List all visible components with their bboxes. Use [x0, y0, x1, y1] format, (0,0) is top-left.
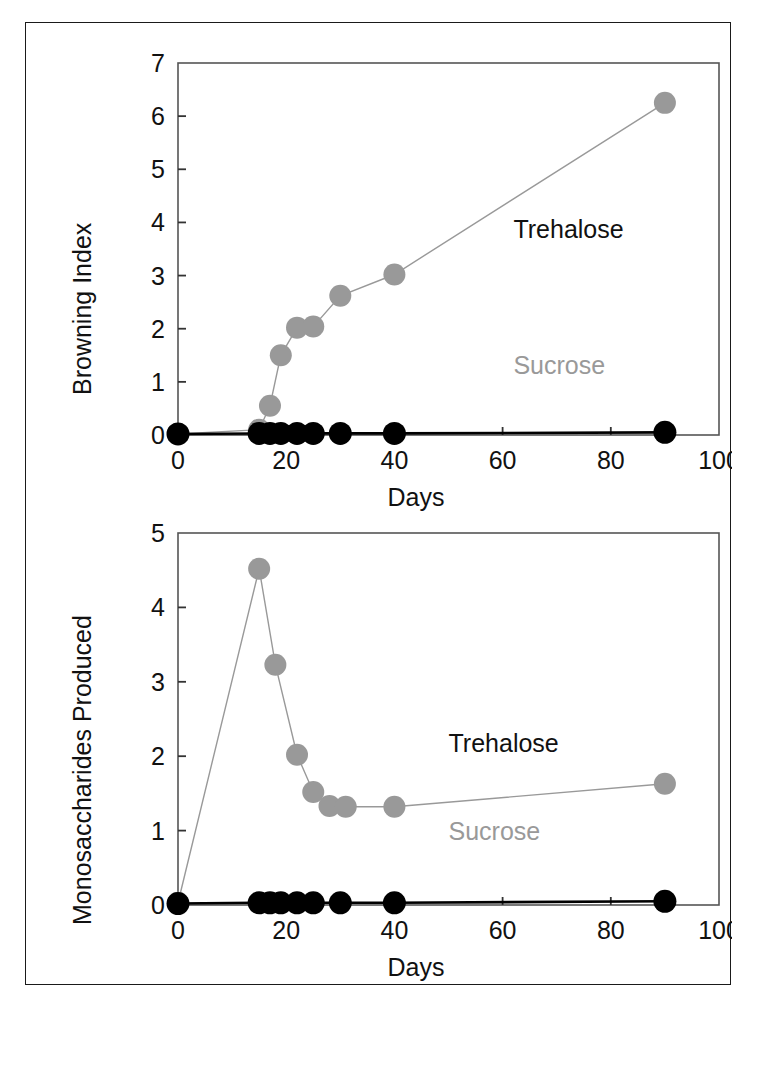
- y-tick-label-0-1: 1: [151, 368, 165, 396]
- monosaccharides-plot: 020406080100012345TrehaloseSucrose: [26, 513, 732, 963]
- y-tick-label-1-0: 0: [151, 891, 165, 919]
- x-axis-title-top: Days: [356, 483, 476, 512]
- x-tick-label-0-5: 100: [698, 446, 732, 474]
- y-tick-label-1-3: 3: [151, 668, 165, 696]
- data-point-trehalose: [248, 558, 270, 580]
- data-point-trehalose: [270, 344, 292, 366]
- x-tick-label-1-0: 0: [171, 916, 185, 944]
- x-tick-label-0-0: 0: [171, 446, 185, 474]
- data-point-trehalose: [383, 796, 405, 818]
- y-tick-label-1-2: 2: [151, 742, 165, 770]
- data-point-sucrose: [302, 422, 325, 445]
- y-tick-label-0-7: 7: [151, 49, 165, 77]
- x-tick-label-0-3: 60: [489, 446, 517, 474]
- y-tick-label-0-4: 4: [151, 208, 165, 236]
- series-annotation-trehalose-0: Trehalose: [513, 215, 623, 243]
- x-tick-label-1-5: 100: [698, 916, 732, 944]
- data-point-sucrose: [653, 890, 676, 913]
- x-tick-label-0-2: 40: [380, 446, 408, 474]
- data-point-sucrose: [329, 891, 352, 914]
- data-point-trehalose: [329, 285, 351, 307]
- y-tick-label-0-5: 5: [151, 155, 165, 183]
- data-point-trehalose: [383, 264, 405, 286]
- plot-frame: [178, 533, 719, 905]
- y-tick-label-1-5: 5: [151, 519, 165, 547]
- y-tick-label-0-2: 2: [151, 315, 165, 343]
- y-tick-label-0-6: 6: [151, 102, 165, 130]
- y-tick-label-0-3: 3: [151, 262, 165, 290]
- y-tick-label-1-4: 4: [151, 593, 165, 621]
- data-point-trehalose: [654, 773, 676, 795]
- series-line-trehalose: [178, 569, 665, 903]
- browning-index-panel: Browning Index 02040608010001234567Treha…: [26, 23, 732, 513]
- y-axis-title-monosaccharides: Monosaccharides Produced: [68, 615, 97, 925]
- y-tick-label-0-0: 0: [151, 421, 165, 449]
- data-point-sucrose: [383, 422, 406, 445]
- x-tick-label-1-2: 40: [380, 916, 408, 944]
- x-tick-label-0-4: 80: [597, 446, 625, 474]
- data-point-sucrose: [383, 891, 406, 914]
- data-point-trehalose: [654, 92, 676, 114]
- monosaccharides-panel: Monosaccharides Produced 020406080100012…: [26, 513, 732, 986]
- data-point-trehalose: [335, 796, 357, 818]
- data-point-sucrose: [167, 422, 190, 445]
- data-point-trehalose: [264, 654, 286, 676]
- data-point-sucrose: [167, 892, 190, 915]
- figure-frame: Browning Index 02040608010001234567Treha…: [25, 22, 731, 985]
- series-annotation-trehalose-1: Trehalose: [449, 729, 559, 757]
- x-tick-label-1-1: 20: [272, 916, 300, 944]
- series-annotation-sucrose-1: Sucrose: [449, 817, 541, 845]
- x-axis-title-bottom: Days: [356, 953, 476, 982]
- x-tick-label-1-3: 60: [489, 916, 517, 944]
- x-tick-label-0-1: 20: [272, 446, 300, 474]
- y-axis-title-browning-index: Browning Index: [68, 223, 97, 395]
- data-point-sucrose: [329, 422, 352, 445]
- data-point-sucrose: [653, 421, 676, 444]
- plot-frame: [178, 63, 719, 435]
- browning-index-plot: 02040608010001234567TrehaloseSucrose: [26, 23, 732, 493]
- series-annotation-sucrose-0: Sucrose: [513, 351, 605, 379]
- series-line-trehalose: [178, 103, 665, 434]
- data-point-sucrose: [302, 891, 325, 914]
- data-point-trehalose: [286, 744, 308, 766]
- x-tick-label-1-4: 80: [597, 916, 625, 944]
- y-tick-label-1-1: 1: [151, 817, 165, 845]
- data-point-trehalose: [302, 316, 324, 338]
- data-point-trehalose: [259, 395, 281, 417]
